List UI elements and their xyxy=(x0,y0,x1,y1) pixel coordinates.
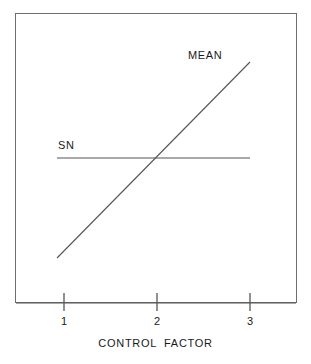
x-axis-title-word-1: CONTROL xyxy=(98,337,157,349)
x-tick-label-2: 2 xyxy=(147,316,167,327)
mean-series-label: MEAN xyxy=(188,50,222,61)
x-axis-title: CONTROLFACTOR xyxy=(0,338,311,349)
mean-series-line xyxy=(57,62,250,258)
x-axis-title-word-2: FACTOR xyxy=(164,337,213,349)
chart-canvas xyxy=(0,0,311,364)
x-tick-label-1: 1 xyxy=(54,316,74,327)
x-tick-label-3: 3 xyxy=(240,316,260,327)
sn-series-label: SN xyxy=(58,140,74,151)
chart-page: MEAN SN 1 2 3 CONTROLFACTOR xyxy=(0,0,311,364)
